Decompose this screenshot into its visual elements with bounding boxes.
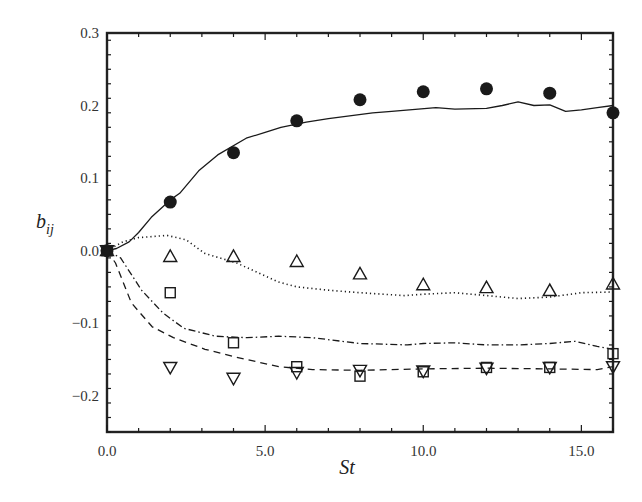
line-dash-dot [107, 251, 613, 350]
marker-square [165, 288, 175, 298]
y-tick-label: 0.1 [80, 170, 99, 186]
x-axis-title: St [339, 456, 355, 478]
y-tick-label: −0.1 [72, 315, 99, 331]
data-lines [107, 102, 613, 370]
marker-filled-circle [417, 85, 430, 98]
marker-square [229, 338, 239, 348]
marker-filled-circle [354, 93, 367, 106]
marker-filled-circle [290, 114, 303, 127]
marker-triangle-up [354, 267, 367, 279]
marker-filled-circle [607, 106, 620, 119]
axis-ticks [107, 33, 613, 432]
x-tick-label: 10.0 [410, 443, 436, 459]
marker-triangle-up [290, 255, 303, 267]
marker-filled-circle [164, 196, 177, 209]
marker-triangle-up [227, 250, 240, 262]
line-solid [107, 102, 613, 251]
tick-labels: 0.05.010.015.0−0.2−0.10.00.10.20.3 [72, 25, 595, 459]
y-axis-title: bij [36, 210, 54, 237]
x-tick-label: 5.0 [256, 443, 275, 459]
plot-frame [107, 33, 613, 432]
marker-triangle-down [164, 362, 177, 374]
x-tick-label: 15.0 [568, 443, 594, 459]
y-tick-label: 0.0 [80, 243, 99, 259]
plot-border [107, 33, 613, 432]
y-tick-label: 0.2 [80, 98, 99, 114]
chart: 0.05.010.015.0−0.2−0.10.00.10.20.3 St bi… [0, 0, 642, 502]
marker-triangle-up [417, 278, 430, 290]
y-tick-label: −0.2 [72, 388, 99, 404]
marker-triangle-up [164, 250, 177, 262]
marker-square [292, 362, 302, 372]
y-axis-title-main: b [36, 210, 46, 232]
marker-triangle-down [227, 373, 240, 385]
marker-triangle-up [543, 284, 556, 296]
data-markers [101, 82, 620, 384]
marker-filled-circle [543, 87, 556, 100]
marker-filled-circle [480, 82, 493, 95]
y-axis-title-sub: ij [46, 222, 54, 237]
marker-triangle-up [480, 281, 493, 293]
y-tick-label: 0.3 [80, 25, 99, 41]
x-tick-label: 0.0 [98, 443, 117, 459]
marker-filled-circle [227, 146, 240, 159]
